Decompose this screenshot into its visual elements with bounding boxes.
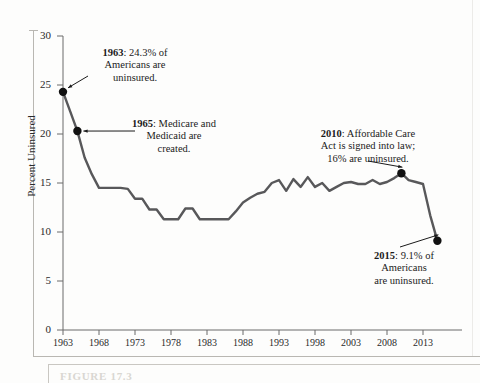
annotation-1963: 1963: 24.3% of Americans are uninsured. [76,47,194,84]
y-tick-label: 10 [25,225,51,237]
annotation-1965-year: 1965 [132,118,153,129]
x-tick-label: 1973 [115,337,155,348]
annotated-data-points [59,88,442,245]
y-tick-label: 30 [25,29,51,41]
x-tick-label: 2013 [403,337,443,348]
figure-caption: FIGURE 17.3 [60,370,132,382]
y-tick-label: 0 [25,323,51,335]
annotation-2015-line1: : 9.1% of [395,250,434,261]
annotation-2015-year: 2015 [374,250,395,261]
caption-rule [48,364,480,365]
x-tick-label: 1963 [43,337,83,348]
annotation-2015-line3: are uninsured. [374,275,433,286]
x-tick-label: 1988 [223,337,263,348]
x-tick-label: 2003 [331,337,371,348]
x-tick-label: 1983 [187,337,227,348]
annotation-1963-line2: Americans are [105,59,166,70]
annotation-2010-year: 2010 [321,128,342,139]
annotation-2015: 2015: 9.1% of Americans are uninsured. [349,250,459,287]
y-tick-label: 25 [25,78,51,90]
line-chart-plot [0,0,480,383]
annotation-1965: 1965: Medicare and Medicaid are created. [104,118,244,155]
x-tick-label: 2008 [367,337,407,348]
x-tick-label: 1998 [295,337,335,348]
annotation-1963-year: 1963 [102,47,123,58]
figure-page: Percent Uninsured 051015202530 196319681… [0,0,480,383]
annotation-2015-line2: Americans [381,262,426,273]
annotation-2010-line3: 16% are uninsured. [327,153,408,164]
annotation-1965-line1: : Medicare and [153,118,216,129]
annotation-2010-line2: Act is signed into law; [321,140,416,151]
y-tick-label: 20 [25,127,51,139]
data-series-uninsured [63,92,437,241]
x-tick-label: 1968 [79,337,119,348]
annotation-2010: 2010: Affordable Care Act is signed into… [292,128,444,165]
annotation-1963-line3: uninsured. [113,72,157,83]
y-tick-label: 15 [25,176,51,188]
annotation-1965-line3: created. [158,143,191,154]
annotation-1965-line2: Medicaid are [146,130,201,141]
y-tick-label: 5 [25,274,51,286]
y-axis-title: Percent Uninsured [25,86,37,226]
x-tick-label: 1993 [259,337,299,348]
annotation-1963-line1: : 24.3% of [123,47,167,58]
x-tick-label: 1978 [151,337,191,348]
annotation-2010-line1: : Affordable Care [342,128,415,139]
caption-rule-vertical [48,364,49,383]
